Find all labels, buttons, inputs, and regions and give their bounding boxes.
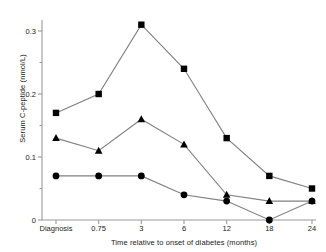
- data-point-square: [95, 91, 101, 97]
- data-point-triangle: [180, 140, 188, 147]
- data-point-square: [309, 185, 315, 191]
- x-tick-label: 12: [222, 224, 230, 233]
- plot-area: [0, 0, 326, 252]
- x-tick-label: 6: [182, 224, 186, 233]
- x-tick-label: 0.75: [91, 224, 106, 233]
- x-tick-label: 3: [139, 224, 143, 233]
- x-tick-label: Diagnosis: [40, 224, 73, 233]
- data-point-triangle: [138, 115, 146, 122]
- x-tick-label: 24: [308, 224, 316, 233]
- data-point-circle: [223, 198, 230, 205]
- data-point-square: [138, 22, 144, 28]
- data-point-circle: [53, 173, 60, 180]
- data-point-square: [181, 66, 187, 72]
- x-axis-title: Time relative to onset of diabetes (mont…: [42, 238, 326, 247]
- data-point-circle: [309, 198, 316, 205]
- x-tick-label: 18: [265, 224, 273, 233]
- line-chart: Serum C-peptide (nmol/L) 0.3 0.2 0.1 0 D…: [0, 0, 326, 252]
- data-point-square: [266, 173, 272, 179]
- data-point-circle: [266, 217, 273, 224]
- data-point-circle: [138, 173, 145, 180]
- data-point-triangle: [52, 134, 60, 141]
- data-point-square: [223, 135, 229, 141]
- data-point-circle: [181, 191, 188, 198]
- data-point-circle: [95, 173, 102, 180]
- data-point-square: [53, 110, 59, 116]
